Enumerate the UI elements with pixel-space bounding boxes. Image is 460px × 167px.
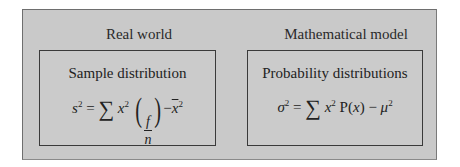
real-world-heading: Real world (23, 26, 255, 43)
paren-open: ( (135, 93, 142, 127)
fraction-denominator: n (145, 131, 152, 147)
minus-sign: − (163, 100, 171, 116)
minus-sign: − (365, 99, 381, 115)
mathematical-model-heading: Mathematical model (245, 26, 447, 43)
fraction-numerator: f (144, 115, 152, 131)
formula-exponent: 2 (178, 99, 183, 109)
summation-icon: ∑ (305, 95, 321, 120)
probability-distributions-title: Probability distributions (248, 65, 422, 82)
probability-function: P( (336, 99, 353, 115)
formula-exponent: 2 (78, 99, 83, 109)
fraction: fn (144, 115, 152, 147)
sample-distribution-box: Sample distribution s2 = ∑ x2 (fn)−x2 (39, 50, 216, 146)
probability-variable: x (353, 99, 360, 115)
equals-sign: = (289, 99, 305, 115)
sample-variance-formula: s2 = ∑ x2 (fn)−x2 (40, 93, 215, 147)
paren-close: ) (154, 93, 161, 127)
sample-distribution-title: Sample distribution (40, 65, 215, 82)
formula-exponent: 2 (388, 98, 393, 108)
population-mean: μ (381, 99, 389, 115)
equals-sign: = (86, 100, 94, 116)
diagram-frame: Real world Mathematical model Sample dis… (22, 9, 437, 160)
formula-exponent: 2 (124, 99, 129, 109)
population-variance-formula: σ2 = ∑ x2 P(x) − μ2 (248, 95, 422, 121)
probability-distributions-box: Probability distributions σ2 = ∑ x2 P(x)… (247, 50, 423, 146)
summation-icon: ∑ (98, 96, 114, 121)
formula-lhs: σ (277, 99, 284, 115)
